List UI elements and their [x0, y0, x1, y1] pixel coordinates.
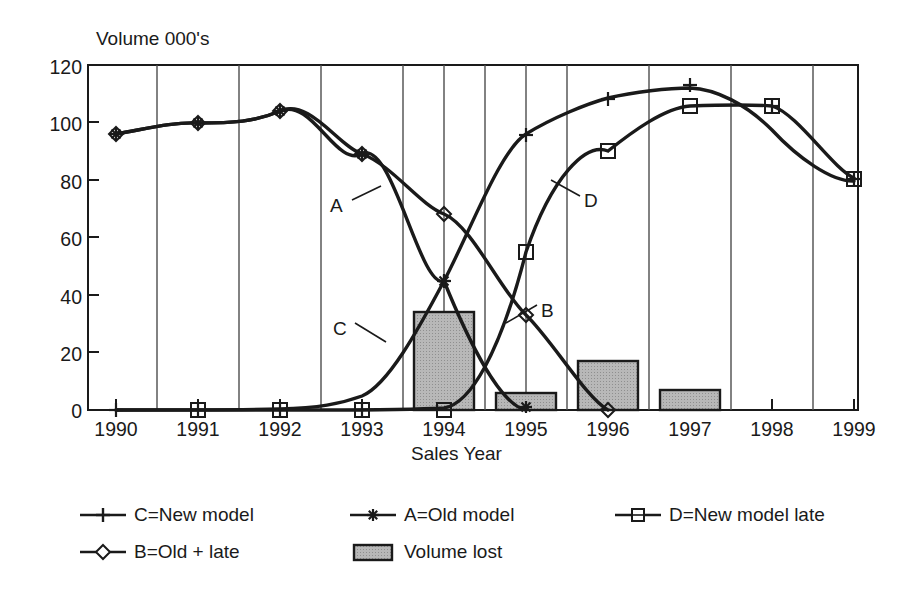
legend-item-d[interactable]: D=New model late — [613, 503, 825, 527]
legend-label-d: D=New model late — [669, 504, 825, 526]
bar-1997 — [660, 390, 720, 410]
y-axis-ticks — [88, 65, 99, 410]
legend-item-a[interactable]: A=Old model — [348, 503, 613, 527]
asterisk-marker-icon — [348, 503, 398, 527]
square-marker-icon — [613, 503, 663, 527]
legend-label-a: A=Old model — [404, 504, 514, 526]
diamond-marker-icon — [78, 540, 128, 564]
legend-row-2: B=Old + late Volume lost — [78, 533, 888, 570]
bar-swatch-icon — [348, 540, 398, 564]
plus-marker-icon — [78, 503, 128, 527]
legend-label-b: B=Old + late — [134, 541, 240, 563]
vertical-gridlines — [157, 65, 813, 410]
legend-item-c[interactable]: C=New model — [78, 503, 348, 527]
legend-row-1: C=New model A=Old model D=New mo — [78, 496, 888, 533]
legend-item-volume-lost[interactable]: Volume lost — [348, 540, 502, 564]
chart-figure: Volume 000's Sales Year 120 100 80 60 40… — [0, 0, 913, 601]
chart-legend: C=New model A=Old model D=New mo — [78, 496, 888, 570]
legend-label-c: C=New model — [134, 504, 254, 526]
legend-label-volume-lost: Volume lost — [404, 541, 502, 563]
legend-item-b[interactable]: B=Old + late — [78, 540, 348, 564]
